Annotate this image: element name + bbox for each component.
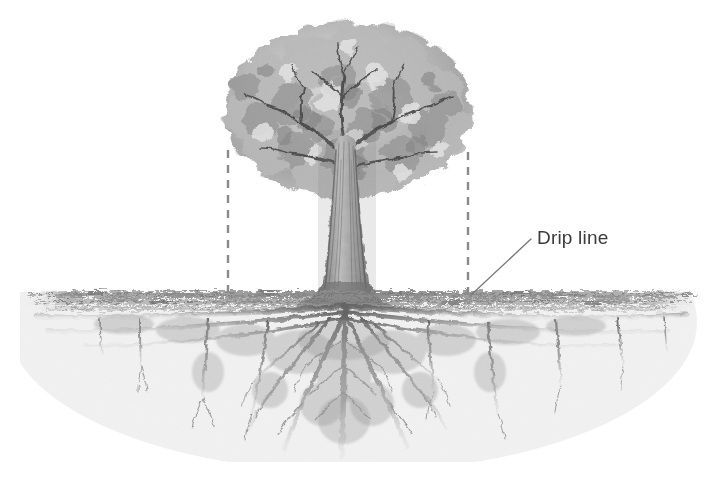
tree-illustration [0, 0, 718, 483]
root-system [20, 292, 700, 462]
drip-line-label: Drip line [537, 227, 609, 249]
drip-line-figure: Drip line [0, 0, 718, 483]
